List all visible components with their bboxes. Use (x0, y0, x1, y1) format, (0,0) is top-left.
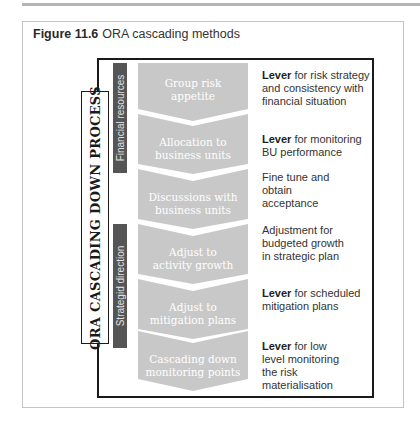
step-label: Cascading downmonitoring points (138, 353, 248, 379)
figure-title: ORA cascading methods (102, 27, 240, 41)
group-label: Financial resources (115, 75, 126, 162)
step-chevron: Cascading downmonitoring points (138, 331, 248, 391)
step-description: Lever for risk strategy and consistency … (262, 69, 374, 108)
step-description: Fine tune and obtain acceptance (262, 171, 340, 210)
top-rule (22, 3, 420, 6)
step-description: Lever for monitoring BU performance (262, 133, 374, 159)
step-chevron: Adjust tomitigation plans (138, 279, 248, 339)
step-description: Adjustment for budgeted growth in strate… (262, 224, 352, 263)
step-chevron: Adjust toactivity growth (138, 224, 248, 284)
process-label-box: ORA CASCADING DOWN PROCESS (81, 91, 109, 344)
group-label: Strategid direction (115, 246, 126, 327)
step-chevron: Discussions withbusiness units (138, 169, 248, 229)
step-description: Lever for low level monitoring the risk … (262, 340, 352, 392)
step-label: Discussions withbusiness units (138, 191, 248, 217)
figure-number: Figure 11.6 (33, 27, 98, 41)
step-label: Adjust tomitigation plans (138, 301, 248, 327)
step-label: Allocation tobusiness units (138, 136, 248, 162)
figure-caption: Figure 11.6ORA cascading methods (33, 26, 240, 41)
group-bar-financial-resources: Financial resources (113, 63, 127, 173)
step-label: Adjust toactivity growth (138, 246, 248, 272)
step-label: Group riskappetite (138, 77, 248, 103)
process-label: ORA CASCADING DOWN PROCESS (88, 86, 103, 350)
step-description: Lever for scheduled mitigation plans (262, 287, 374, 313)
group-bar-strategic-direction: Strategid direction (113, 224, 127, 348)
step-chevron: Allocation tobusiness units (138, 114, 248, 174)
